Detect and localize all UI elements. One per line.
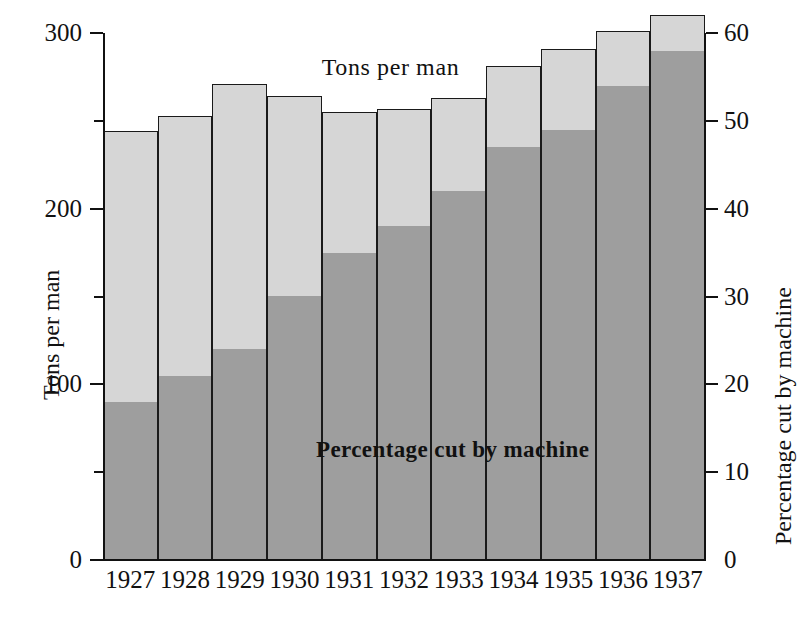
left-tick-100 [90, 383, 103, 385]
bar-segment-percentage-cut [159, 376, 212, 560]
bar-segment-tons-per-man [268, 97, 321, 297]
bar-segment-percentage-cut [432, 191, 485, 560]
left-tick-200 [90, 208, 103, 210]
left-tick-label-200: 200 [30, 196, 82, 221]
bar-1931 [322, 112, 377, 560]
bar-segment-percentage-cut [487, 147, 540, 560]
bar-segment-tons-per-man [378, 110, 431, 228]
right-tick-30 [706, 296, 718, 298]
right-tick-40 [706, 208, 718, 210]
x-axis-label-1937: 1937 [650, 566, 705, 594]
bar-segment-percentage-cut [597, 86, 650, 560]
left-tick-0 [90, 559, 103, 561]
bar-segment-percentage-cut [268, 296, 321, 560]
x-axis-label-1929: 1929 [212, 566, 267, 594]
bar-segment-tons-per-man [651, 16, 704, 51]
bar-1933 [431, 98, 486, 560]
x-axis-label-1928: 1928 [158, 566, 213, 594]
bar-segment-percentage-cut [378, 226, 431, 560]
bar-segment-tons-per-man [104, 132, 157, 403]
bar-1936 [596, 31, 651, 560]
right-tick-label-50: 50 [724, 108, 749, 133]
right-tick-10 [706, 471, 718, 473]
x-axis-label-1932: 1932 [377, 566, 432, 594]
right-tick-label-20: 20 [724, 371, 749, 396]
bar-segment-percentage-cut [104, 402, 157, 560]
bottom-axis-line [103, 559, 706, 561]
right-tick-20 [706, 383, 718, 385]
right-tick-label-0: 0 [724, 547, 737, 572]
right-tick-label-40: 40 [724, 196, 749, 221]
x-axis-label-1927: 1927 [103, 566, 158, 594]
bar-1930 [267, 96, 322, 560]
right-tick-label-30: 30 [724, 284, 749, 309]
bar-1927 [103, 131, 158, 560]
left-tick-label-300: 300 [30, 20, 82, 45]
bar-1934 [486, 66, 541, 560]
bar-1932 [377, 109, 432, 560]
x-axis-label-1930: 1930 [267, 566, 322, 594]
x-axis-label-1936: 1936 [596, 566, 651, 594]
right-tick-60 [706, 32, 718, 34]
bar-1928 [158, 116, 213, 560]
right-tick-label-60: 60 [724, 20, 749, 45]
left-tick-50 [94, 471, 103, 473]
right-axis-title: Percentage cut by machine [770, 287, 797, 545]
x-axis-label-1935: 1935 [541, 566, 596, 594]
bar-segment-tons-per-man [159, 117, 212, 377]
bar-segment-percentage-cut [542, 130, 595, 560]
bar-segment-percentage-cut [213, 349, 266, 560]
bar-segment-tons-per-man [213, 85, 266, 350]
left-axis-title: Tons per man [38, 270, 65, 400]
left-tick-150 [94, 296, 103, 298]
bar-1935 [541, 49, 596, 560]
x-axis-label-1933: 1933 [431, 566, 486, 594]
right-tick-50 [706, 120, 718, 122]
right-tick-label-10: 10 [724, 459, 749, 484]
bar-1929 [212, 84, 267, 560]
x-axis-label-1934: 1934 [486, 566, 541, 594]
x-axis-label-1931: 1931 [322, 566, 377, 594]
left-tick-300 [90, 32, 103, 34]
left-tick-250 [94, 120, 103, 122]
left-axis-line [103, 33, 105, 561]
tons-per-man-label: Tons per man [0, 54, 781, 81]
bar-segment-tons-per-man [432, 99, 485, 192]
percentage-cut-label: Percentage cut by machine [316, 437, 589, 463]
bar-1937 [650, 15, 705, 560]
bar-segment-tons-per-man [323, 113, 376, 254]
left-tick-label-0: 0 [30, 547, 82, 572]
bar-segment-percentage-cut [323, 253, 376, 560]
bar-segment-percentage-cut [651, 51, 704, 560]
